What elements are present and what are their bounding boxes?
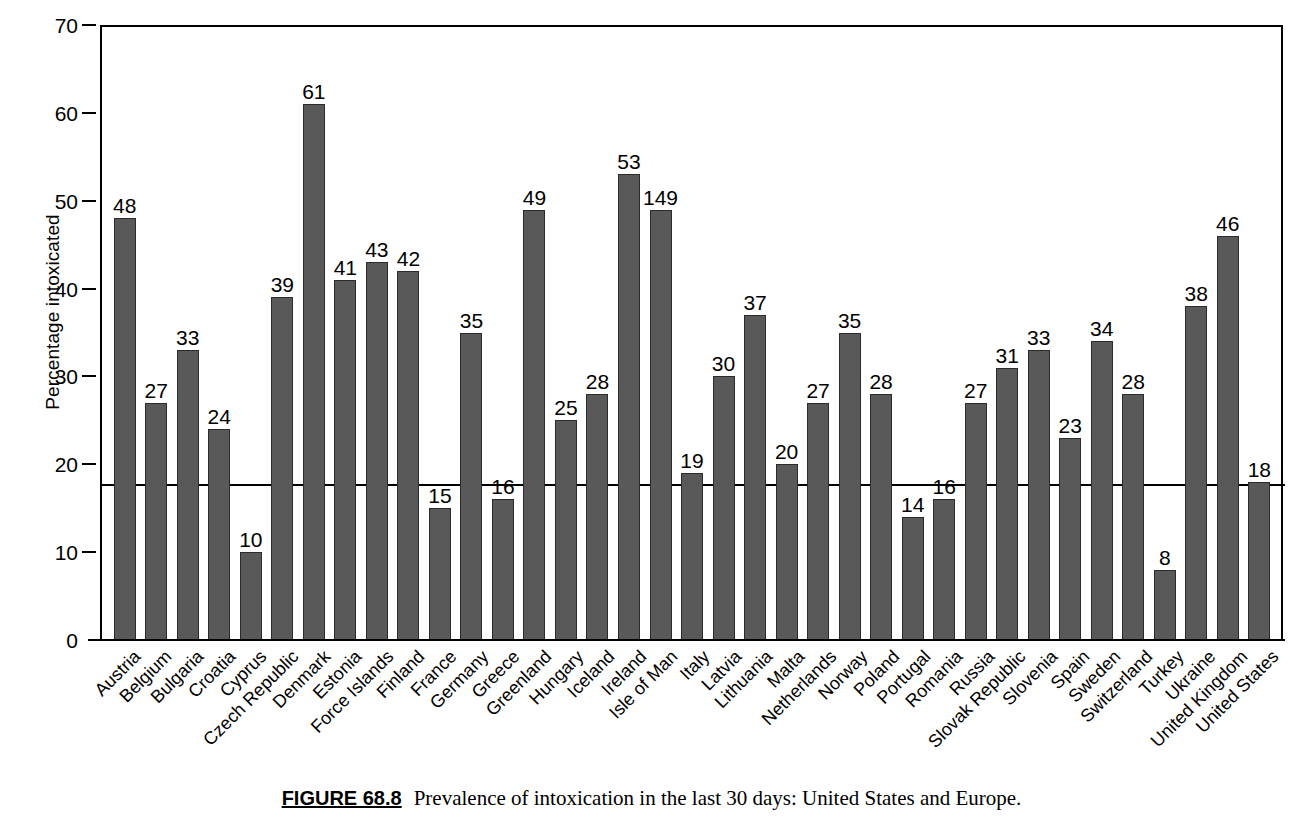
- bar[interactable]: 23: [1059, 438, 1081, 640]
- x-label-slot: Italy: [676, 641, 708, 791]
- bar[interactable]: 33: [177, 350, 199, 640]
- bar-value-label: 19: [680, 450, 703, 471]
- bar-slot: 33: [1023, 27, 1055, 640]
- bar[interactable]: 48: [114, 218, 136, 640]
- bar[interactable]: 31: [996, 368, 1018, 640]
- bar-slot: 53: [613, 27, 645, 640]
- bar-value-label: 27: [806, 380, 829, 401]
- x-label-slot: Portugal: [898, 641, 930, 791]
- bar[interactable]: 24: [208, 429, 230, 640]
- bar[interactable]: 42: [397, 271, 419, 640]
- y-axis-tick-mark: [82, 288, 96, 290]
- bar[interactable]: 28: [1122, 394, 1144, 640]
- bar-value-label: 48: [113, 195, 136, 216]
- figure-caption-text: Prevalence of intoxication in the last 3…: [414, 786, 1022, 810]
- bar[interactable]: 27: [965, 403, 987, 640]
- bar-value-label: 10: [239, 529, 262, 550]
- bar-slot: 20: [771, 27, 803, 640]
- bar[interactable]: 28: [586, 394, 608, 640]
- bar-slot: 14: [897, 27, 929, 640]
- bar[interactable]: 149: [650, 210, 672, 641]
- x-label-slot: Greenland: [518, 641, 550, 791]
- bar-slot: 61: [298, 27, 330, 640]
- bar-slot: 28: [582, 27, 614, 640]
- bar-value-label: 43: [365, 239, 388, 260]
- y-axis-tick-mark: [82, 112, 96, 114]
- bar-slot: 8: [1149, 27, 1181, 640]
- bar-slot: 37: [739, 27, 771, 640]
- bar[interactable]: 10: [240, 552, 262, 640]
- bar[interactable]: 61: [303, 104, 325, 640]
- bar-value-label: 33: [1027, 327, 1050, 348]
- bar[interactable]: 49: [523, 210, 545, 641]
- bar-slot: 48: [109, 27, 141, 640]
- bar[interactable]: 28: [870, 394, 892, 640]
- bar[interactable]: 35: [460, 333, 482, 641]
- bar[interactable]: 18: [1248, 482, 1270, 640]
- bar-value-label: 41: [334, 257, 357, 278]
- bar-slot: 49: [519, 27, 551, 640]
- bar[interactable]: 19: [681, 473, 703, 640]
- y-axis-tick-mark: [82, 551, 96, 553]
- x-label-slot: Poland: [866, 641, 898, 791]
- bar-value-label: 20: [775, 441, 798, 462]
- bar[interactable]: 16: [933, 499, 955, 640]
- y-axis-tick-mark: [82, 463, 96, 465]
- x-label-slot: Austria: [107, 641, 139, 791]
- bar[interactable]: 39: [271, 297, 293, 640]
- bar-value-label: 149: [643, 187, 678, 208]
- bar-value-label: 53: [617, 151, 640, 172]
- bar[interactable]: 27: [145, 403, 167, 640]
- bar-slot: 10: [235, 27, 267, 640]
- y-axis-tick-mark: [82, 24, 96, 26]
- bar-value-label: 35: [838, 310, 861, 331]
- x-label-slot: Force Islands: [360, 641, 392, 791]
- bar[interactable]: 41: [334, 280, 356, 640]
- bar-value-label: 39: [271, 274, 294, 295]
- x-label-slot: Germany: [455, 641, 487, 791]
- bar[interactable]: 43: [366, 262, 388, 640]
- bar-slot: 27: [141, 27, 173, 640]
- bar[interactable]: 35: [839, 333, 861, 641]
- bar-slot: 38: [1181, 27, 1213, 640]
- bar-value-label: 61: [302, 81, 325, 102]
- bar-slot: 27: [802, 27, 834, 640]
- bar-slot: 149: [645, 27, 677, 640]
- bar-slot: 19: [676, 27, 708, 640]
- bar-value-label: 27: [145, 380, 168, 401]
- bar[interactable]: 14: [902, 517, 924, 640]
- bar-slot: 35: [456, 27, 488, 640]
- bar-value-label: 46: [1216, 213, 1239, 234]
- bar-slot: 18: [1244, 27, 1276, 640]
- bar-slot: 34: [1086, 27, 1118, 640]
- bar-value-label: 42: [397, 248, 420, 269]
- bar[interactable]: 15: [429, 508, 451, 640]
- bar-slot: 16: [487, 27, 519, 640]
- bar[interactable]: 46: [1217, 236, 1239, 640]
- x-label-slot: Slovak Republic: [993, 641, 1025, 791]
- bar[interactable]: 30: [713, 376, 735, 640]
- x-label-slot: Latvia: [708, 641, 740, 791]
- x-label-slot: Bulgaria: [170, 641, 202, 791]
- bar[interactable]: 8: [1154, 570, 1176, 640]
- x-axis-tick-labels: AustriaBelgiumBulgariaCroatiaCyprusCzech…: [102, 641, 1281, 791]
- bar-value-label: 28: [869, 371, 892, 392]
- bar[interactable]: 33: [1028, 350, 1050, 640]
- x-label-slot: Iceland: [581, 641, 613, 791]
- bar[interactable]: 16: [492, 499, 514, 640]
- bar-value-label: 38: [1185, 283, 1208, 304]
- bar-value-label: 14: [901, 494, 924, 515]
- bar[interactable]: 37: [744, 315, 766, 640]
- bar[interactable]: 53: [618, 174, 640, 640]
- bar[interactable]: 20: [776, 464, 798, 640]
- bar-slot: 46: [1212, 27, 1244, 640]
- x-label-slot: Czech Republic: [265, 641, 297, 791]
- bar-value-label: 35: [460, 310, 483, 331]
- bar-value-label: 16: [491, 476, 514, 497]
- bar[interactable]: 27: [807, 403, 829, 640]
- bar-slot: 35: [834, 27, 866, 640]
- bar[interactable]: 38: [1185, 306, 1207, 640]
- bar[interactable]: 34: [1091, 341, 1113, 640]
- bar-slot: 15: [424, 27, 456, 640]
- bar[interactable]: 25: [555, 420, 577, 640]
